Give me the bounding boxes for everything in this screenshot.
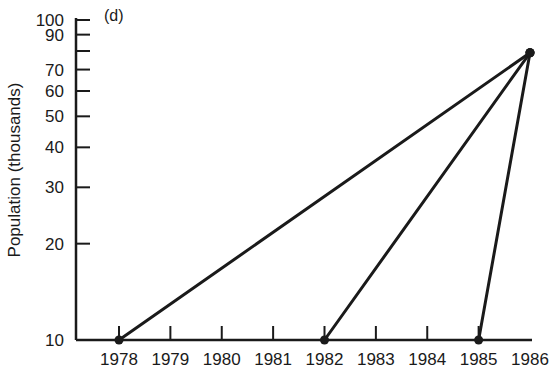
line-from-1978 [119, 53, 530, 340]
y-tick-label: 10 [45, 331, 64, 350]
axes [76, 18, 532, 340]
data-point-marker [474, 336, 483, 345]
x-tick-label: 1983 [357, 350, 395, 369]
y-axis-title: Population (thousands) [5, 83, 24, 258]
y-tick-label: 70 [45, 61, 64, 80]
y-tick-label: 60 [45, 82, 64, 101]
y-tick-label: 20 [45, 235, 64, 254]
y-tick-label: 50 [45, 107, 64, 126]
y-tick-label: 40 [45, 138, 64, 157]
x-axis-ticks: 197819791980198119821983198419851986 [100, 326, 549, 369]
data-point-marker [115, 336, 124, 345]
y-axis-ticks: 1020304050607090100 [36, 11, 90, 350]
panel-label: (d) [104, 7, 124, 24]
x-tick-label: 1980 [203, 350, 241, 369]
x-tick-label: 1984 [408, 350, 446, 369]
data-series [115, 48, 535, 344]
population-chart: 1020304050607090100 19781979198019811982… [0, 0, 554, 370]
x-tick-label: 1986 [511, 350, 549, 369]
line-from-1985 [479, 53, 530, 340]
x-tick-label: 1985 [460, 350, 498, 369]
x-tick-label: 1978 [100, 350, 138, 369]
y-tick-label: 100 [36, 11, 64, 30]
line-from-1982 [325, 53, 531, 340]
y-tick-label: 30 [45, 178, 64, 197]
x-tick-label: 1979 [151, 350, 189, 369]
x-tick-label: 1982 [306, 350, 344, 369]
x-tick-label: 1981 [254, 350, 292, 369]
data-point-marker [526, 48, 535, 57]
data-point-marker [320, 336, 329, 345]
